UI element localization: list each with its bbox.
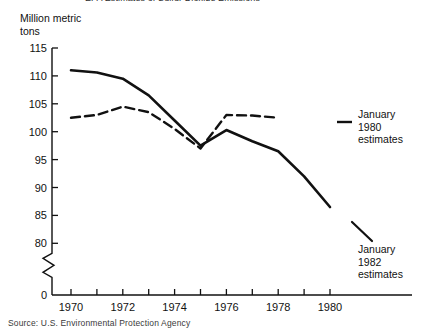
y-axis-tick-label: 115 [29,42,47,54]
y-axis-tick-label: 80 [35,237,47,249]
x-axis-tick-label: 1978 [266,301,290,313]
x-axis-tick-label: 1980 [318,301,342,313]
series-line-january-1982 [71,70,330,207]
annotation-leader-line-icon [352,222,372,241]
ticks-group [52,48,330,295]
source-note: Source: U.S. Environmental Protection Ag… [8,318,190,328]
y-axis-tick-label: 85 [35,209,47,221]
y-axis-zero-label: 0 [41,289,47,301]
y-axis-tick-label: 90 [35,182,47,194]
y-axis-line [43,48,54,295]
y-axis-tick-label: 105 [29,98,47,110]
axes-group [43,48,412,295]
data-series-group [71,70,330,207]
chart-root: EPA Estimates of Sulfur Dioxide Emission… [0,0,422,335]
y-axis-tick-label: 95 [35,154,47,166]
x-axis-tick-label: 1974 [162,301,186,313]
y-axis-tick-label: 100 [29,126,47,138]
x-axis-tick-label: 1970 [59,301,83,313]
x-axis-tick-label: 1976 [214,301,238,313]
y-axis-tick-label: 110 [29,70,47,82]
annotation-january-1982-estimates: January 1982 estimates [358,243,403,281]
tick-labels-group: 8085909510010511011501970197219741976197… [29,42,343,313]
plot-area: 8085909510010511011501970197219741976197… [0,0,422,335]
series-line-january-1980 [71,107,278,149]
x-axis-tick-label: 1972 [111,301,135,313]
annotation-january-1980-estimates: January 1980 estimates [358,108,403,146]
